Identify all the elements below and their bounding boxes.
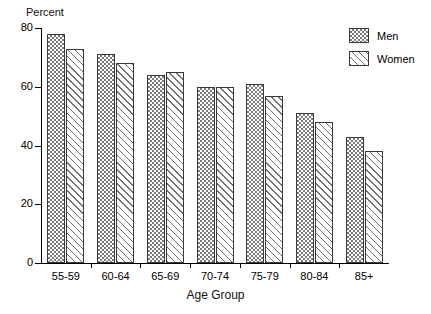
legend-item-men: Men (349, 26, 429, 45)
x-tick (240, 263, 241, 268)
bar-65-69-women (166, 72, 184, 263)
chart-legend: MenWomen (349, 26, 429, 72)
x-tick-label: 65-69 (151, 270, 179, 282)
y-tick-label: 80 (1, 21, 33, 33)
bar-60-64-women (116, 63, 134, 263)
legend-swatch-women (349, 51, 369, 66)
legend-item-women: Women (349, 49, 429, 68)
x-tick (91, 263, 92, 268)
x-tick-label: 70-74 (201, 270, 229, 282)
x-tick-label: 55-59 (52, 270, 80, 282)
bar-55-59-women (66, 49, 84, 263)
bar-65-69-men (147, 75, 165, 263)
x-axis-line (41, 263, 389, 264)
x-tick (190, 263, 191, 268)
y-tick (35, 263, 41, 264)
y-tick-label: 60 (1, 80, 33, 92)
x-tick-label: 60-64 (101, 270, 129, 282)
x-axis-title: Age Group (0, 288, 431, 302)
x-tick (140, 263, 141, 268)
legend-label-women: Women (377, 53, 415, 65)
bar-70-74-women (216, 87, 234, 263)
x-tick-label: 75-79 (251, 270, 279, 282)
x-tick (290, 263, 291, 268)
x-tick-label: 85+ (355, 270, 374, 282)
bar-85plus-women (365, 151, 383, 263)
legend-swatch-men (349, 28, 369, 43)
y-tick-label: 0 (1, 256, 33, 268)
x-tick-label: 80-84 (300, 270, 328, 282)
y-tick-label: 20 (1, 197, 33, 209)
bar-80-84-men (296, 113, 314, 263)
y-axis-title: Percent (26, 6, 64, 18)
bar-55-59-men (47, 34, 65, 263)
x-tick (339, 263, 340, 268)
bar-60-64-men (97, 54, 115, 263)
bar-80-84-women (315, 122, 333, 263)
bar-75-79-men (246, 84, 264, 263)
plot-area (41, 28, 389, 263)
bar-85plus-men (346, 137, 364, 263)
legend-label-men: Men (377, 30, 398, 42)
y-tick-label: 40 (1, 139, 33, 151)
bar-75-79-women (265, 96, 283, 263)
bar-70-74-men (197, 87, 215, 263)
bar-chart: Percent 020406080 55-5960-6465-6970-7475… (0, 0, 431, 314)
